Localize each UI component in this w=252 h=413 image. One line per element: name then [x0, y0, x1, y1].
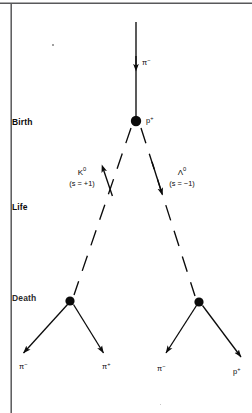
- kaon-dashed-line: [74, 128, 131, 295]
- left-pion-minus-charge: −: [24, 361, 27, 367]
- stage-label-death: Death: [12, 293, 36, 303]
- left-decay-pion-minus-label: π−: [19, 363, 27, 371]
- left-decay-pion-minus-line: [24, 305, 68, 354]
- right-decay-pion-minus-label: π−: [157, 365, 165, 373]
- right-decay-proton-label: p+: [233, 368, 240, 376]
- right-pion-minus-charge: −: [162, 363, 165, 369]
- lambda-neutral-track: [141, 128, 195, 296]
- proton-charge: +: [150, 115, 153, 121]
- right-proton-charge: +: [237, 366, 240, 372]
- lambda-dashed-line: [141, 128, 195, 296]
- incoming-pion-label: π−: [142, 59, 150, 67]
- right-decay-proton-line: [203, 306, 242, 358]
- scan-speck-upper-left-icon: [52, 44, 54, 46]
- production-vertex-label: p+: [146, 117, 153, 125]
- kaon-strangeness: (s = +1): [51, 179, 113, 189]
- lambda-state-label: Λ0 (s = −1): [151, 168, 213, 189]
- left-pion-plus-charge: +: [107, 361, 110, 367]
- incoming-pion-charge: −: [147, 57, 150, 63]
- stage-label-life: Life: [12, 202, 28, 212]
- lambda-superscript: 0: [183, 166, 186, 172]
- kaon-symbol-line: K0: [51, 168, 113, 179]
- production-vertex-dot: [131, 116, 141, 126]
- right-decay-vertex-dot: [194, 297, 203, 306]
- left-decay-pion-plus-line: [74, 305, 104, 354]
- kaon-superscript: 0: [83, 166, 86, 172]
- stage-label-birth: Birth: [12, 117, 33, 127]
- lambda-symbol-line: Λ0: [151, 168, 213, 179]
- decay-diagram-canvas: [0, 0, 252, 413]
- right-decay-pion-minus-line: [166, 306, 197, 354]
- left-decay-vertex-dot: [65, 296, 74, 305]
- particle-decay-figure: Birth Life Death π− p+ K0 (s = +1) Λ0 (s…: [0, 0, 252, 413]
- lambda-strangeness: (s = −1): [151, 179, 213, 189]
- kaon-state-label: K0 (s = +1): [51, 168, 113, 189]
- kaon-neutral-track: [74, 128, 131, 295]
- left-decay-pion-plus-label: π+: [102, 363, 110, 371]
